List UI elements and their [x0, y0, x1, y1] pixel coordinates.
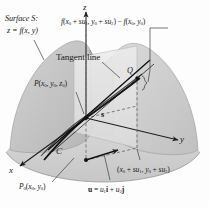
directional-derivative-figure: z y x Surface S: z = f(x, y) f(x0 + su1,…	[0, 0, 209, 207]
point-P0-label: P0(x0, y0)	[19, 183, 45, 192]
tangent-line-label: Tangent line	[56, 52, 100, 62]
point-P-label: P(x0, y0, z0)	[34, 80, 67, 89]
z-axis-label: z	[83, 2, 86, 12]
point-Q-label: Q	[127, 66, 133, 75]
marker-P	[84, 116, 88, 120]
leader-surface	[34, 40, 44, 60]
surface-label-line1: Surface S:	[5, 14, 38, 23]
curve-C-label: C	[56, 146, 62, 156]
x-axis-label: x	[9, 165, 13, 175]
marker-Q	[135, 76, 138, 79]
segment-s-label: s	[101, 110, 104, 119]
vector-u-label: u = u1i + u2j	[88, 186, 124, 195]
surface-label-line2: z = f(x, y)	[7, 26, 38, 35]
foot-point-label: (x0 + su1, y0 + su2)	[117, 166, 170, 175]
y-axis-label: y	[180, 134, 184, 144]
surface-label-line1-text: Surface S:	[5, 14, 38, 23]
height-difference-label: f(x0 + su1, y0 + su2) − f(x0, y0)	[61, 18, 145, 27]
